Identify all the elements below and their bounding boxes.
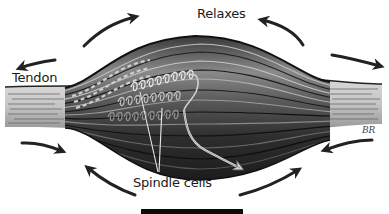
arrow-tendon-left-icon xyxy=(20,60,55,68)
arrow-right-icon xyxy=(332,55,380,66)
right-tendon xyxy=(322,80,382,128)
spindle-cells-label: Spindle cells xyxy=(133,175,212,190)
muscle-diagram: Relaxes Tendon Spindle cells BR xyxy=(0,0,389,214)
muscle-belly xyxy=(60,36,335,180)
arrow-bottom-mid-right-icon xyxy=(240,170,298,195)
tendon-label: Tendon xyxy=(12,70,57,85)
arrow-top-left-icon xyxy=(84,17,135,46)
left-tendon xyxy=(5,86,70,128)
bottom-black-bar xyxy=(141,209,243,214)
arrow-bottom-left-icon xyxy=(22,143,62,151)
artist-signature: BR xyxy=(362,125,375,135)
arrow-bottom-mid-left-icon xyxy=(88,168,135,195)
relaxes-label: Relaxes xyxy=(197,6,246,21)
arrow-top-right-icon xyxy=(262,20,303,45)
arrow-bottom-right-icon xyxy=(325,140,372,150)
